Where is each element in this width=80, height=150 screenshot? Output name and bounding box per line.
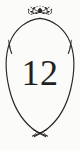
number-layer: 12 [0, 0, 80, 150]
ornamental-number-card: 12 [0, 0, 80, 150]
page-number: 12 [22, 55, 59, 91]
